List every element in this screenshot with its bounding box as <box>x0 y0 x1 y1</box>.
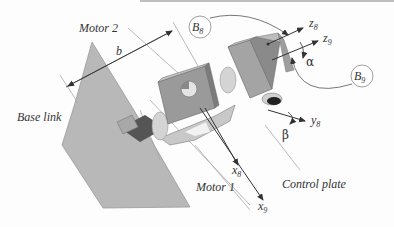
flange-disc-left <box>152 112 168 140</box>
motor1-label: Motor 1 <box>195 180 235 194</box>
motor2-label: Motor 2 <box>78 21 118 35</box>
motor-cylinder-end <box>267 97 281 105</box>
base-link-label: Base link <box>17 110 62 124</box>
z8-label: z8 <box>308 16 318 32</box>
y8-label: y8 <box>310 113 320 129</box>
x9-label: x9 <box>257 199 267 215</box>
beta-label: β <box>282 128 289 142</box>
alpha-label: α <box>306 55 314 69</box>
B9-leader-arc <box>292 58 352 88</box>
control-plate-label: Control plate <box>282 177 347 191</box>
z9-label: z9 <box>322 31 332 47</box>
diagram-canvas: Motor 2 b Base link Motor 1 Control plat… <box>0 0 394 227</box>
B8-leader-arc <box>210 15 288 35</box>
dimension-b-label: b <box>116 44 122 58</box>
alpha-rotation-arc <box>300 42 304 58</box>
y8-axis-arrow <box>268 110 305 121</box>
dimension-b-arrow-left <box>68 31 172 86</box>
flange-disc-right <box>220 67 236 93</box>
mechanism-diagram: Motor 2 b Base link Motor 1 Control plat… <box>0 0 394 227</box>
beta-rotation-arc <box>288 112 293 124</box>
